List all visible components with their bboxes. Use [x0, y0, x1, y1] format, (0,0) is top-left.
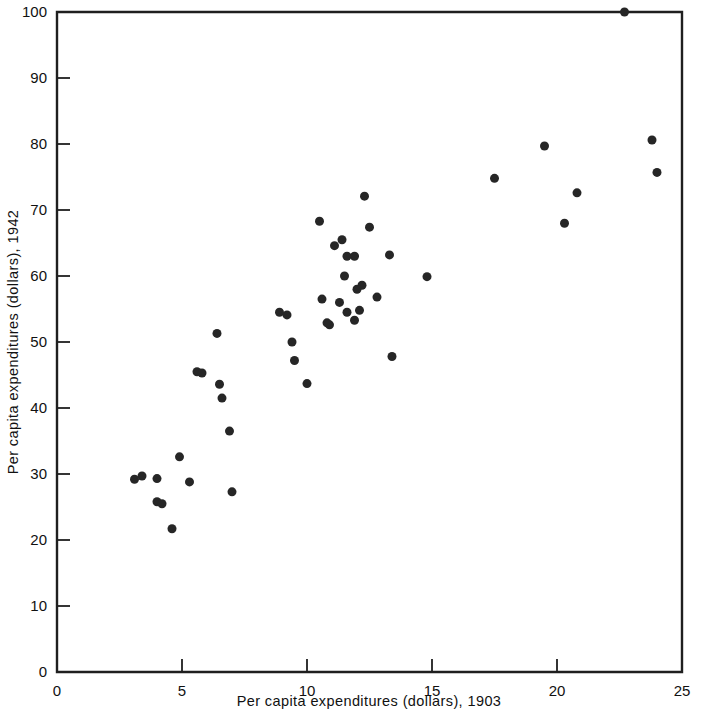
- x-axis-ticks: [182, 659, 557, 672]
- data-point: [283, 310, 292, 319]
- data-point: [335, 298, 344, 307]
- y-tick-label: 60: [30, 267, 47, 284]
- y-axis-title: Per capita expenditures (dollars), 1942: [5, 210, 21, 475]
- data-point: [323, 318, 332, 327]
- data-point: [490, 174, 499, 183]
- data-point: [315, 217, 324, 226]
- y-tick-label: 100: [22, 3, 47, 20]
- data-point: [175, 452, 184, 461]
- data-point: [343, 308, 352, 317]
- data-point: [560, 219, 569, 228]
- data-point: [330, 241, 339, 250]
- data-point: [350, 316, 359, 325]
- data-point: [350, 252, 359, 261]
- data-point: [338, 235, 347, 244]
- y-axis-ticks: [57, 78, 70, 606]
- scatter-plot-figure: 0102030405060708090100 0510152025 Per ca…: [0, 0, 711, 714]
- data-point: [365, 223, 374, 232]
- data-point: [228, 487, 237, 496]
- data-point: [353, 285, 362, 294]
- data-point: [620, 8, 629, 17]
- data-point: [213, 329, 222, 338]
- data-point: [138, 471, 147, 480]
- plot-frame: [57, 12, 682, 672]
- y-tick-label: 50: [30, 333, 47, 350]
- y-tick-label: 20: [30, 531, 47, 548]
- data-point: [185, 477, 194, 486]
- data-point: [388, 352, 397, 361]
- data-point: [373, 293, 382, 302]
- x-tick-label: 20: [549, 682, 566, 699]
- y-tick-label: 90: [30, 69, 47, 86]
- data-point: [340, 272, 349, 281]
- data-point: [648, 136, 657, 145]
- data-point: [423, 272, 432, 281]
- axis-frame: [57, 12, 682, 672]
- data-point: [215, 380, 224, 389]
- data-point: [360, 192, 369, 201]
- data-point: [158, 499, 167, 508]
- data-point: [303, 379, 312, 388]
- y-axis-tick-labels: 0102030405060708090100: [22, 3, 47, 680]
- data-point: [225, 427, 234, 436]
- x-tick-label: 0: [53, 682, 61, 699]
- y-tick-label: 0: [39, 663, 47, 680]
- data-point: [355, 306, 364, 315]
- data-point: [318, 295, 327, 304]
- data-point: [168, 524, 177, 533]
- data-point: [540, 141, 549, 150]
- data-point: [653, 168, 662, 177]
- y-tick-label: 30: [30, 465, 47, 482]
- x-tick-label: 25: [674, 682, 691, 699]
- y-tick-label: 80: [30, 135, 47, 152]
- y-tick-label: 70: [30, 201, 47, 218]
- data-point: [288, 338, 297, 347]
- data-point: [573, 188, 582, 197]
- data-point: [153, 474, 162, 483]
- plot-canvas: 0102030405060708090100 0510152025 Per ca…: [0, 0, 711, 714]
- x-axis-title: Per capita expenditures (dollars), 1903: [237, 693, 502, 709]
- data-point: [290, 356, 299, 365]
- y-tick-label: 10: [30, 597, 47, 614]
- data-point: [198, 369, 207, 378]
- data-point: [218, 394, 227, 403]
- data-points-layer: [130, 8, 662, 534]
- y-tick-label: 40: [30, 399, 47, 416]
- x-tick-label: 5: [178, 682, 186, 699]
- data-point: [385, 250, 394, 259]
